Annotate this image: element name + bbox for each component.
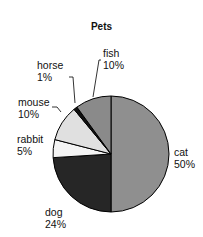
leader-line-horse: [69, 77, 75, 103]
label-mouse-name: mouse: [18, 96, 50, 108]
label-fish-pct: 10%: [103, 59, 124, 71]
label-fish-name: fish: [103, 47, 124, 59]
pie-slice-dog: [53, 154, 111, 212]
label-dog-name: dog: [45, 206, 66, 218]
leader-line-fish: [93, 60, 101, 97]
label-rabbit-name: rabbit: [17, 133, 43, 145]
pie-slice-cat: [111, 96, 169, 212]
label-rabbit-pct: 5%: [17, 145, 43, 157]
label-cat-name: cat: [174, 146, 195, 158]
label-dog: dog 24%: [45, 206, 66, 230]
label-horse-pct: 1%: [37, 71, 63, 83]
label-cat-pct: 50%: [174, 158, 195, 170]
label-rabbit: rabbit 5%: [17, 133, 43, 157]
label-horse-name: horse: [37, 59, 63, 71]
leader-line-mouse: [52, 107, 61, 112]
label-dog-pct: 24%: [45, 218, 66, 230]
label-mouse: mouse 10%: [18, 96, 50, 120]
label-fish: fish 10%: [103, 47, 124, 71]
label-cat: cat 50%: [174, 146, 195, 170]
label-mouse-pct: 10%: [18, 108, 50, 120]
label-horse: horse 1%: [37, 59, 63, 83]
